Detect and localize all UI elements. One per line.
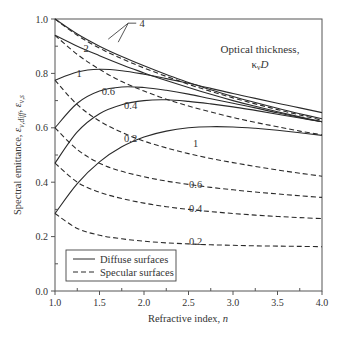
y-tick-label: 0.4 — [36, 177, 49, 188]
svg-text:κνD: κνD — [252, 58, 269, 72]
curve-solid — [55, 127, 322, 214]
curve-solid — [55, 87, 322, 128]
x-tick-label: 1.5 — [93, 297, 106, 308]
curve-label: 0.4 — [124, 100, 138, 111]
x-tick-label: 2.0 — [138, 297, 151, 308]
curve-label: 0.2 — [189, 236, 202, 247]
curve-label: 4 — [140, 18, 146, 29]
y-axis-label: Spectral emittance, εν,diff, εν,s — [12, 95, 26, 215]
y-tick-label: 0.6 — [36, 122, 49, 133]
legend-diffuse-label: Diffuse surfaces — [100, 254, 168, 265]
curve-label: 0.4 — [189, 203, 203, 214]
y-tick-label: 0.2 — [36, 231, 49, 242]
curve-labels: 4210.60.40.210.60.40.2 — [76, 18, 203, 247]
curve-label: 0.2 — [124, 133, 137, 144]
x-axis-label: Refractive index, n — [148, 313, 228, 324]
emittance-chart: 4210.60.40.210.60.40.2 1.01.52.02.53.03.… — [0, 0, 341, 338]
x-tick-label: 1.0 — [49, 297, 62, 308]
curve-label: 1 — [76, 68, 81, 79]
curve-label: 1 — [193, 138, 198, 149]
curve-label: 0.6 — [189, 179, 202, 190]
x-tick-label: 4.0 — [316, 297, 329, 308]
x-axis-label-text: Refractive index, — [148, 313, 223, 324]
svg-text:Optical thickness,: Optical thickness, — [221, 43, 300, 55]
optical-thickness-annotation: Optical thickness, κνD — [221, 43, 300, 72]
y-tick-label: 1.0 — [36, 14, 49, 25]
y-tick-label: 0.0 — [36, 286, 49, 297]
curve-label: 2 — [84, 43, 89, 54]
legend-specular-label: Specular surfaces — [100, 267, 174, 278]
x-tick-label: 2.5 — [182, 297, 195, 308]
curve-label: 0.6 — [102, 86, 115, 97]
x-tick-label: 3.5 — [271, 297, 284, 308]
x-tick-label: 3.0 — [227, 297, 240, 308]
y-tick-label: 0.8 — [36, 68, 49, 79]
legend: Diffuse surfaces Specular surfaces — [66, 250, 176, 281]
